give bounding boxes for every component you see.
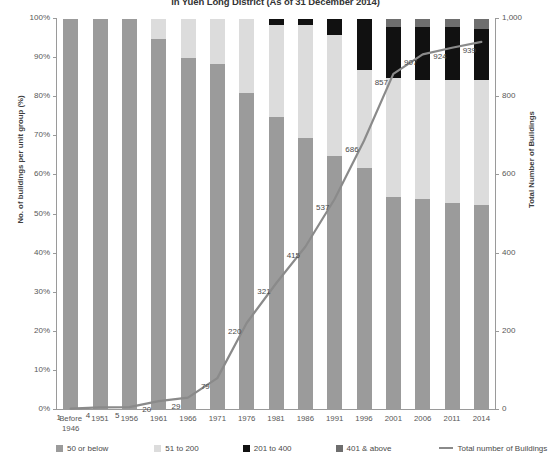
left-tick-label: 20% <box>34 327 50 335</box>
legend-label: 51 to 200 <box>165 444 198 453</box>
bar-segment[interactable] <box>298 19 313 25</box>
bar-segment[interactable] <box>210 19 225 64</box>
bar-group[interactable] <box>210 19 225 410</box>
bar-group[interactable] <box>122 19 137 410</box>
left-tick-label: 90% <box>34 53 50 61</box>
bar-segment[interactable] <box>239 19 254 93</box>
line-point-label: 537 <box>316 204 329 212</box>
bar-segment[interactable] <box>269 25 284 117</box>
line-point-label: 924 <box>433 53 446 61</box>
bar-segment[interactable] <box>181 19 196 58</box>
bar-segment[interactable] <box>386 19 401 27</box>
line-point-label: 907 <box>404 59 417 67</box>
left-tick-mark <box>53 253 56 254</box>
bar-group[interactable] <box>181 19 196 410</box>
bar-segment[interactable] <box>415 27 430 80</box>
bar-segment[interactable] <box>415 199 430 410</box>
legend-item[interactable]: 401 & above <box>336 444 392 453</box>
bar-segment[interactable] <box>445 203 460 410</box>
bar-segment[interactable] <box>415 80 430 199</box>
left-tick-label: 60% <box>34 170 50 178</box>
x-axis-label: 2014 <box>458 414 504 424</box>
bar-group[interactable] <box>327 19 342 410</box>
bar-segment[interactable] <box>357 19 372 70</box>
bar-segment[interactable] <box>445 19 460 27</box>
line-point-label: 79 <box>201 383 210 391</box>
right-tick-mark <box>496 409 499 410</box>
bar-segment[interactable] <box>151 19 166 39</box>
right-tick-label: 800 <box>502 92 515 100</box>
bar-group[interactable] <box>93 19 108 410</box>
plot-area: 0%10%20%30%40%50%60%70%80%90%100% 020040… <box>56 18 496 410</box>
bar-segment[interactable] <box>181 58 196 410</box>
bar-segment[interactable] <box>151 39 166 410</box>
bar-segment[interactable] <box>474 80 489 205</box>
left-tick-mark <box>53 292 56 293</box>
bar-segment[interactable] <box>327 19 342 35</box>
bar-group[interactable] <box>298 19 313 410</box>
bar-segment[interactable] <box>93 19 108 410</box>
right-tick-mark <box>496 96 499 97</box>
bar-segment[interactable] <box>210 64 225 410</box>
line-point-label: 20 <box>142 406 151 414</box>
line-point-label: 321 <box>257 288 270 296</box>
right-tick-mark <box>496 174 499 175</box>
bar-segment[interactable] <box>269 19 284 25</box>
right-axis-title: Total Number of Buildings <box>527 90 536 230</box>
bar-segment[interactable] <box>269 117 284 410</box>
legend-item[interactable]: Total number of Buildings <box>439 444 547 453</box>
bar-segment[interactable] <box>298 138 313 410</box>
chart-title: in Yuen Long District (As of 31 December… <box>0 0 551 7</box>
left-tick-mark <box>53 18 56 19</box>
left-tick-mark <box>53 331 56 332</box>
bar-segment[interactable] <box>474 205 489 410</box>
bar-segment[interactable] <box>445 27 460 80</box>
right-tick-label: 400 <box>502 249 515 257</box>
bar-segment[interactable] <box>357 70 372 168</box>
bar-segment[interactable] <box>239 93 254 410</box>
bar-segment[interactable] <box>415 19 430 27</box>
bar-group[interactable] <box>386 19 401 410</box>
bar-group[interactable] <box>474 19 489 410</box>
bar-segment[interactable] <box>386 197 401 410</box>
legend-swatch <box>336 445 343 452</box>
left-axis-title: No. of buildings per unit group (%) <box>16 90 25 230</box>
legend-swatch <box>154 445 161 452</box>
bar-segment[interactable] <box>298 25 313 138</box>
line-point-label: 939 <box>463 47 476 55</box>
legend-item[interactable]: 51 to 200 <box>154 444 198 453</box>
building-age-stacked-chart: in Yuen Long District (As of 31 December… <box>0 0 551 458</box>
legend-item[interactable]: 201 to 400 <box>243 444 292 453</box>
bar-segment[interactable] <box>386 78 401 197</box>
left-tick-label: 100% <box>30 14 50 22</box>
bar-group[interactable] <box>445 19 460 410</box>
bar-segment[interactable] <box>474 19 489 29</box>
legend-swatch <box>56 445 63 452</box>
bar-group[interactable] <box>63 19 78 410</box>
right-tick-label: 600 <box>502 170 515 178</box>
bar-segment[interactable] <box>327 156 342 410</box>
right-tick-label: 1,000 <box>502 14 522 22</box>
left-tick-label: 50% <box>34 210 50 218</box>
right-tick-mark <box>496 253 499 254</box>
bar-group[interactable] <box>415 19 430 410</box>
legend-line-marker <box>439 447 453 449</box>
bar-segment[interactable] <box>357 168 372 410</box>
bar-segment[interactable] <box>63 19 78 410</box>
right-tick-label: 200 <box>502 327 515 335</box>
bar-segment[interactable] <box>327 35 342 156</box>
bar-group[interactable] <box>269 19 284 410</box>
bar-segment[interactable] <box>386 27 401 78</box>
bar-group[interactable] <box>151 19 166 410</box>
right-tick-label: 0 <box>502 405 506 413</box>
left-tick-label: 70% <box>34 131 50 139</box>
bar-group[interactable] <box>239 19 254 410</box>
bar-segment[interactable] <box>445 80 460 203</box>
bar-group[interactable] <box>357 19 372 410</box>
bar-segment[interactable] <box>122 19 137 410</box>
left-tick-label: 10% <box>34 366 50 374</box>
bar-segment[interactable] <box>474 29 489 80</box>
legend-item[interactable]: 50 or below <box>56 444 108 453</box>
line-point-label: 686 <box>345 146 358 154</box>
right-tick-mark <box>496 18 499 19</box>
